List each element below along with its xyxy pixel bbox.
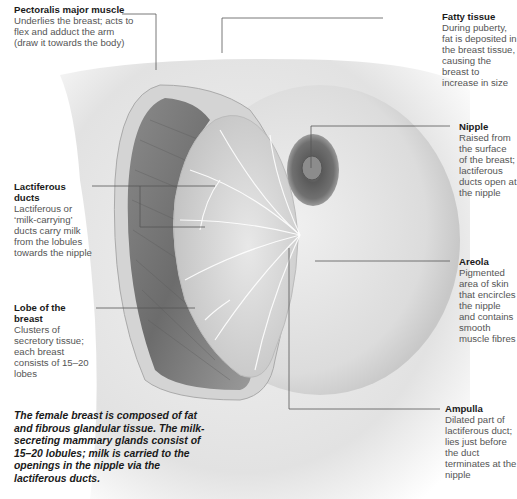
label-desc: Underlies the breast; acts to flex and a… — [14, 15, 139, 48]
breast-anatomy-diagram: Pectoralis major muscle Underlies the br… — [0, 0, 517, 499]
label-title: Nipple — [459, 121, 517, 132]
label-desc: Clusters of secretory tissue; each breas… — [14, 324, 96, 379]
label-title: Areola — [459, 256, 517, 267]
label-areola: Areola Pigmented area of skin that encir… — [459, 256, 517, 344]
label-nipple: Nipple Raised from the surface of the br… — [459, 121, 517, 198]
leader-fatty — [222, 18, 383, 53]
label-lobe-of-the-breast: Lobe of the breast Clusters of secretory… — [14, 302, 96, 379]
label-desc: Pigmented area of skin that encircles th… — [459, 267, 517, 344]
label-desc: During puberty, fat is deposited in the … — [442, 22, 517, 88]
label-fatty-tissue: Fatty tissue During puberty, fat is depo… — [442, 11, 517, 88]
label-desc: Lactiferous or ‘milk-carrying’ ducts car… — [14, 203, 92, 258]
label-title: Lactiferous ducts — [14, 181, 92, 203]
label-title: Pectoralis major muscle — [14, 4, 139, 15]
nipple — [302, 156, 322, 180]
label-desc: Raised from the surface of the breast; l… — [459, 132, 517, 198]
label-ampulla: Ampulla Dilated part of lactiferous duct… — [445, 403, 517, 480]
label-title: Lobe of the breast — [14, 302, 96, 324]
label-title: Fatty tissue — [442, 11, 517, 22]
label-pectoralis-major: Pectoralis major muscle Underlies the br… — [14, 4, 139, 48]
label-lactiferous-ducts: Lactiferous ducts Lactiferous or ‘milk-c… — [14, 181, 92, 258]
figure-caption: The female breast is composed of fat and… — [14, 410, 214, 486]
label-desc: Dilated part of lactiferous duct; lies j… — [445, 414, 517, 480]
label-title: Ampulla — [445, 403, 517, 414]
